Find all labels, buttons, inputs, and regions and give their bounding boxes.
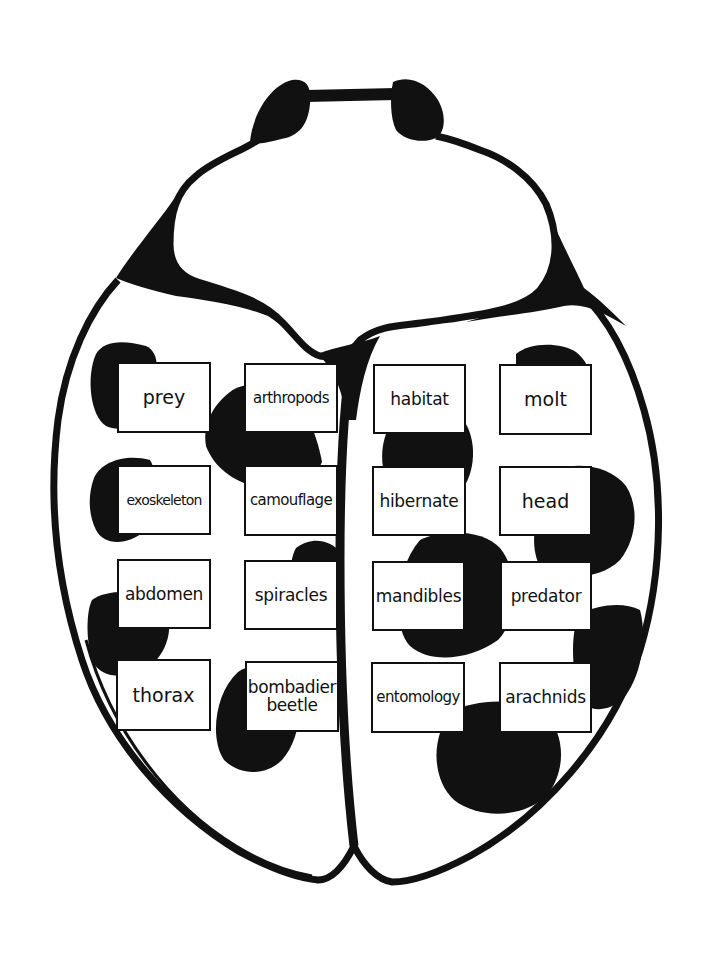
word-card-label: hibernate bbox=[379, 493, 458, 510]
word-card-label: head bbox=[522, 492, 569, 511]
word-card-camouflage[interactable]: camouflage bbox=[244, 465, 338, 536]
word-card-label: entomology bbox=[376, 690, 459, 705]
head-outline bbox=[170, 136, 555, 357]
word-card-label: prey bbox=[143, 388, 185, 407]
word-card-label: thorax bbox=[133, 686, 195, 705]
word-card-abdomen[interactable]: abdomen bbox=[117, 559, 211, 629]
word-card-label: spiracles bbox=[255, 587, 327, 604]
word-card-label: mandibles bbox=[376, 588, 461, 605]
head-top-bar bbox=[306, 88, 396, 102]
word-card-label: bombadier beetle bbox=[248, 679, 336, 715]
word-card-arthropods[interactable]: arthropods bbox=[244, 363, 338, 433]
word-card-mandibles[interactable]: mandibles bbox=[372, 561, 465, 631]
word-card-arachnids[interactable]: arachnids bbox=[499, 662, 592, 733]
wing-seam bbox=[340, 352, 354, 846]
word-card-molt[interactable]: molt bbox=[499, 364, 592, 435]
ladybug-illustration bbox=[0, 0, 716, 977]
word-card-label: habitat bbox=[390, 391, 448, 408]
right-eye-lobe bbox=[391, 79, 444, 141]
word-card-label: molt bbox=[524, 390, 567, 409]
word-card-entomology[interactable]: entomology bbox=[371, 662, 465, 733]
word-card-prey[interactable]: prey bbox=[117, 362, 211, 433]
left-eye-lobe bbox=[250, 80, 310, 144]
word-card-predator[interactable]: predator bbox=[500, 561, 592, 631]
word-card-exoskeleton[interactable]: exoskeleton bbox=[117, 465, 211, 535]
word-card-hibernate[interactable]: hibernate bbox=[372, 466, 466, 536]
word-card-label: camouflage bbox=[250, 493, 332, 508]
word-card-label: exoskeleton bbox=[127, 493, 202, 507]
right-shoulder-patch bbox=[466, 210, 626, 326]
word-card-habitat[interactable]: habitat bbox=[373, 364, 466, 434]
word-card-label: abdomen bbox=[125, 586, 203, 603]
word-card-label: arthropods bbox=[253, 391, 329, 406]
word-card-bombadier-beetle[interactable]: bombadier beetle bbox=[245, 661, 339, 732]
word-card-label: predator bbox=[511, 588, 582, 605]
left-shoulder-patch bbox=[116, 196, 306, 352]
word-card-label: arachnids bbox=[505, 689, 585, 706]
word-card-thorax[interactable]: thorax bbox=[116, 659, 211, 731]
word-card-spiracles[interactable]: spiracles bbox=[244, 560, 338, 630]
word-card-head[interactable]: head bbox=[499, 466, 592, 536]
